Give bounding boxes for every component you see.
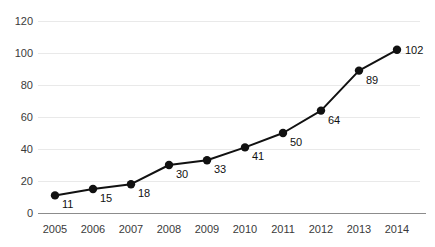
y-axis-tick-label: 20 — [21, 175, 33, 187]
data-point-marker — [165, 161, 173, 169]
data-point-marker — [317, 106, 325, 114]
data-point-label: 18 — [138, 187, 150, 199]
y-axis-tick-label: 80 — [21, 79, 33, 91]
x-axis-tick-label: 2005 — [43, 223, 67, 235]
data-point-label: 15 — [100, 192, 112, 204]
line-chart: 020406080100120 200520062007200820092010… — [0, 0, 435, 247]
data-point-marker — [51, 191, 59, 199]
data-point-label: 33 — [214, 163, 226, 175]
data-point-marker — [241, 143, 249, 151]
x-axis-tick-label: 2008 — [157, 223, 181, 235]
x-axis-tick-label: 2014 — [385, 223, 409, 235]
data-point-label: 50 — [290, 136, 302, 148]
data-point-label: 102 — [405, 44, 423, 56]
chart-canvas: 020406080100120 200520062007200820092010… — [0, 0, 435, 247]
data-point-label: 41 — [252, 150, 264, 162]
data-point-marker — [279, 129, 287, 137]
data-point-label: 64 — [328, 114, 340, 126]
x-axis-tick-label: 2009 — [195, 223, 219, 235]
data-point-label: 30 — [176, 168, 188, 180]
x-axis-tick-label: 2007 — [119, 223, 143, 235]
y-axis-tick-label: 40 — [21, 143, 33, 155]
y-axis-tick-label: 0 — [27, 207, 33, 219]
x-axis-tick-label: 2013 — [347, 223, 371, 235]
x-axis-tick-label: 2011 — [271, 223, 295, 235]
data-point-marker — [203, 156, 211, 164]
data-point-marker — [355, 66, 363, 74]
x-axis-tick-label: 2010 — [233, 223, 257, 235]
data-point-label: 11 — [62, 198, 73, 210]
data-point-marker — [127, 180, 135, 188]
data-point-marker — [89, 185, 97, 193]
data-point-marker — [393, 46, 401, 54]
y-axis-tick-label: 60 — [21, 111, 33, 123]
y-axis-tick-label: 120 — [15, 15, 33, 27]
x-axis-tick-label: 2006 — [81, 223, 105, 235]
y-axis-tick-label: 100 — [15, 47, 33, 59]
x-axis-tick-label: 2012 — [309, 223, 333, 235]
data-point-label: 89 — [366, 74, 378, 86]
